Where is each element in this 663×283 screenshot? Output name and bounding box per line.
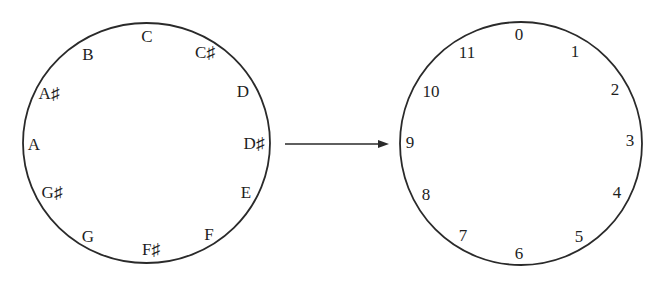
arrow-right-icon (378, 140, 389, 148)
integer-label: 9 (406, 133, 415, 152)
pitch-label: A♯ (39, 84, 60, 103)
integer-label: 11 (459, 43, 475, 62)
pitch-label: C (141, 27, 152, 46)
pitch-label: F (204, 225, 213, 244)
mapping-arrow (285, 140, 389, 148)
pitch-circle-outline (23, 23, 270, 263)
integer-label: 3 (626, 131, 635, 150)
integer-labels: 01234567891011 (406, 25, 635, 263)
pitch-label: D♯ (244, 134, 265, 153)
integer-label: 1 (571, 42, 580, 61)
integer-label: 2 (611, 80, 620, 99)
integer-label: 10 (423, 82, 440, 101)
pitch-name-circle: CC♯DD♯EFF♯GG♯AA♯B (23, 23, 270, 263)
pitch-label: A (28, 135, 41, 154)
pitch-label: D (237, 82, 249, 101)
integer-circle: 01234567891011 (400, 22, 642, 265)
integer-circle-outline (400, 22, 642, 265)
pitch-label: F♯ (142, 240, 160, 259)
integer-label: 0 (515, 25, 524, 44)
pitch-label: G (82, 227, 94, 246)
pitch-label: E (241, 183, 251, 202)
integer-label: 6 (515, 244, 524, 263)
pitch-class-mapping-diagram: CC♯DD♯EFF♯GG♯AA♯B 01234567891011 (0, 0, 663, 283)
pitch-label: G♯ (42, 183, 63, 202)
pitch-label: B (82, 45, 93, 64)
pitch-labels: CC♯DD♯EFF♯GG♯AA♯B (28, 27, 265, 259)
integer-label: 4 (613, 183, 622, 202)
integer-label: 5 (575, 227, 584, 246)
integer-label: 8 (422, 185, 431, 204)
pitch-label: C♯ (195, 43, 215, 62)
integer-label: 7 (459, 226, 468, 245)
